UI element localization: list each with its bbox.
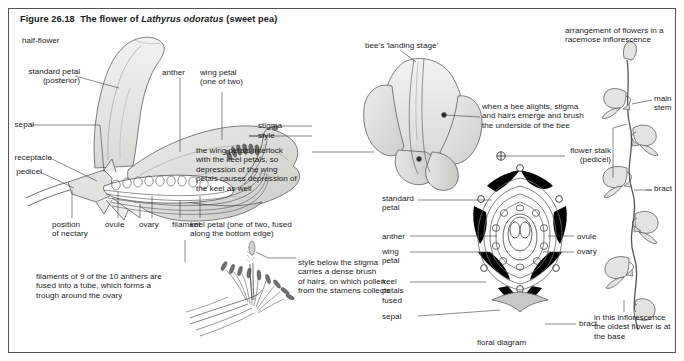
caption-floral-diagram: floral diagram [477,338,526,347]
label-fd-ovary: ovary [577,247,597,256]
note-wing-petals-interlock: the wing petals interlock with the keel … [196,146,297,193]
label-receptacle: receptacle [0,153,52,162]
label-fd-keel-petals: keel petals fused [382,277,404,305]
label-keel-petal: keel petal (one of two, fused along the … [190,220,292,239]
label-main-stem: main stem [654,94,672,113]
label-flower-stalk: flower stalk (pedicel) [545,146,611,165]
label-bract-inflorescence: bract [654,184,672,193]
label-pedicel: pedicel [0,167,42,176]
label-fd-anther: anther [382,232,405,241]
figure-container: Figure 26.18 The flower of Lathyrus odor… [0,0,684,361]
label-fd-ovule: ovule [577,232,596,241]
figure-title: Figure 26.18 The flower of Lathyrus odor… [20,14,277,24]
figure-title-tail: (sweet pea) [224,14,278,24]
note-style-hair-brush: style below the stigma carries a dense b… [298,258,390,296]
figure-number: Figure 26.18 [20,14,75,24]
label-style: style [258,131,275,140]
title-inflorescence: arrangement of flowers in a racemose inf… [565,26,664,45]
label-fd-standard-petal: standard petal [382,194,414,213]
label-position-of-nectary: position of nectary [52,220,88,239]
label-sepal: sepal [0,120,34,129]
figure-title-lead: The flower of [80,14,141,24]
label-ovary: ovary [139,220,159,229]
label-anther: anther [162,68,185,77]
half-flower-caption: half-flower [22,36,60,45]
note-fused-filaments: filaments of 9 of the 10 anthers are fus… [36,272,162,300]
label-fd-sepal: sepal [382,312,401,321]
figure-frame [8,8,676,353]
label-fd-wing-petal: wing petal [382,247,400,266]
label-stigma: stigma [258,121,282,130]
note-oldest-flower-at-base: in this inflorescence the oldest flower … [594,313,671,341]
label-wing-petal: wing petal (one of two) [200,68,243,87]
label-bee-landing-stage: bee's 'landing stage' [365,41,438,50]
note-bee-alights: when a bee alights, stigma and hairs eme… [482,102,584,130]
label-ovule: ovule [105,220,124,229]
figure-species-name: Lathyrus odoratus [141,14,223,24]
label-standard-petal: standard petal (posterior) [8,67,80,86]
